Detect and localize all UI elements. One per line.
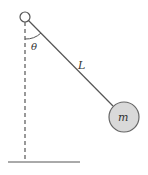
length-label: L	[77, 59, 85, 72]
angle-label: θ	[31, 41, 37, 52]
angle-arc	[25, 33, 41, 39]
pendulum-diagram: θ L m	[0, 0, 148, 175]
mass-label: m	[118, 111, 128, 124]
pivot-icon	[20, 12, 30, 22]
